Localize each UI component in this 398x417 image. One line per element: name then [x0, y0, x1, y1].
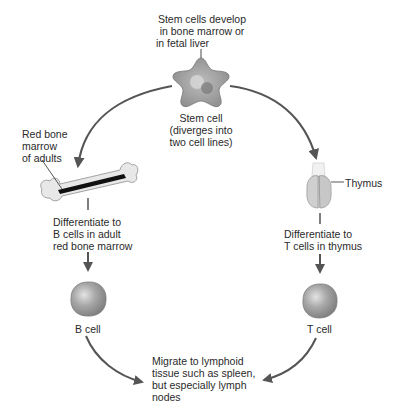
thymus-icon	[307, 163, 331, 208]
b-differentiate-line-2: B cells in adult	[53, 228, 132, 240]
t-differentiate-label: Differentiate to T cells in thymus	[284, 228, 362, 252]
arrow-t-cell-to-lymphoid	[264, 338, 316, 380]
b-differentiate-line-1: Differentiate to	[53, 216, 132, 228]
stem-cell-line-2: (diverges into	[158, 124, 244, 136]
stem-cell-icon	[173, 58, 229, 107]
thymus-label: Thymus	[345, 177, 382, 189]
t-cell-icon	[303, 284, 337, 318]
bone-marrow-line-1: Red bone	[22, 128, 68, 140]
stem-cell-line-3: two cell lines)	[158, 136, 244, 148]
migrate-line-2: tissue such as spleen,	[152, 367, 255, 379]
t-cell-label: T cell	[307, 323, 332, 335]
t-differentiate-line-1: Differentiate to	[284, 228, 362, 240]
bone-marrow-line-3: of adults	[22, 152, 68, 164]
b-differentiate-label: Differentiate to B cells in adult red bo…	[53, 216, 132, 252]
migrate-label: Migrate to lymphoid tissue such as splee…	[152, 355, 255, 403]
b-differentiate-line-3: red bone marrow	[53, 240, 132, 252]
bone-icon	[41, 163, 138, 201]
stem-cell-label: Stem cell (diverges into two cell lines)	[158, 112, 244, 148]
stem-origin-line-1: Stem cells develop	[150, 13, 254, 25]
b-cell-label: B cell	[75, 323, 101, 335]
stem-origin-label: Stem cells develop in bone marrow or in …	[150, 13, 254, 49]
bone-marrow-label: Red bone marrow of adults	[22, 128, 68, 164]
b-cell-icon	[71, 282, 106, 316]
arrow-b-cell-to-lymphoid	[86, 336, 142, 382]
migrate-line-3: but especially lymph	[152, 379, 255, 391]
stem-cell-line-1: Stem cell	[158, 112, 244, 124]
stem-origin-line-2: in bone marrow or	[150, 25, 254, 37]
migrate-line-1: Migrate to lymphoid	[152, 355, 255, 367]
stem-origin-line-3: in fetal liver	[150, 37, 254, 49]
t-differentiate-line-2: T cells in thymus	[284, 240, 362, 252]
migrate-line-4: nodes	[152, 391, 255, 403]
bone-marrow-line-2: marrow	[22, 140, 68, 152]
